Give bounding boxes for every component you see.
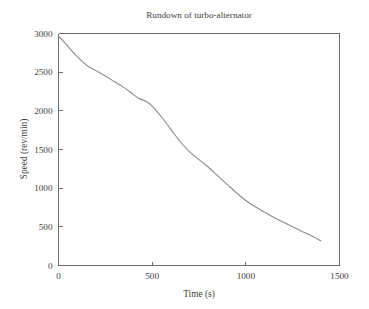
chart-title: Rundown of turbo-alternator — [146, 10, 252, 20]
x-axis-title: Time (s) — [183, 289, 215, 300]
y-axis-title: Speed (rev/min) — [19, 119, 30, 180]
line-chart: Rundown of turbo-alternator 050010001500… — [0, 0, 369, 309]
y-tick-label: 1000 — [34, 183, 53, 193]
y-tick-label: 2000 — [34, 106, 53, 116]
chart-figure: Rundown of turbo-alternator 050010001500… — [0, 0, 369, 309]
x-tick-label: 0 — [56, 271, 61, 281]
y-tick-label: 1500 — [34, 145, 53, 155]
y-tick-label: 500 — [39, 222, 53, 232]
y-tick-label: 2500 — [34, 67, 53, 77]
x-tick-label: 1000 — [237, 271, 256, 281]
x-tick-label: 1500 — [330, 271, 349, 281]
y-tick-label: 3000 — [34, 29, 53, 39]
chart-background — [0, 0, 369, 309]
x-tick-label: 500 — [145, 271, 159, 281]
y-tick-label: 0 — [48, 261, 53, 271]
